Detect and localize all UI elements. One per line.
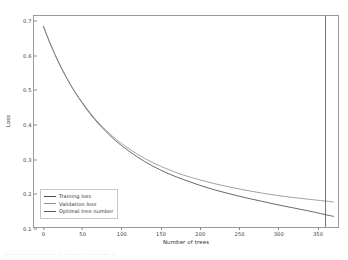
legend-label: Optimal tree number <box>59 208 113 214</box>
y-tick-label: 0.1 <box>23 226 34 232</box>
x-tick: 200 <box>195 227 205 237</box>
series-line-validation-loss <box>43 26 333 202</box>
x-tick: 300 <box>274 227 284 237</box>
x-tick: 50 <box>79 227 86 237</box>
legend-color-swatch <box>44 211 56 212</box>
chart-legend: Training lossValidation lossOptimal tree… <box>40 189 118 220</box>
legend-label: Training loss <box>59 193 91 199</box>
y-tick: 0.3 <box>23 157 34 163</box>
y-tick-mark <box>34 229 37 230</box>
y-tick-mark <box>34 55 37 56</box>
legend-label: Validation loss <box>59 201 96 207</box>
figure-canvas: 0.10.20.30.40.50.60.7 050100150200250300… <box>0 0 348 260</box>
x-tick-label: 50 <box>79 231 86 237</box>
y-tick-mark <box>34 159 37 160</box>
y-tick-label: 0.4 <box>23 122 34 128</box>
x-tick: 250 <box>235 227 245 237</box>
y-tick: 0.6 <box>23 53 34 59</box>
y-tick-label: 0.3 <box>23 157 34 163</box>
x-tick-mark <box>161 227 162 230</box>
x-tick-mark <box>239 227 240 230</box>
y-tick-mark <box>34 125 37 126</box>
y-axis-title: Loss <box>5 115 11 127</box>
x-tick-label: 150 <box>156 231 166 237</box>
y-tick: 0.5 <box>23 87 34 93</box>
clipped-caption-strip: ···· ·· ····· ······ ··· ·· ··· ··· ····… <box>4 252 248 258</box>
y-tick-mark <box>34 194 37 195</box>
legend-item: Optimal tree number <box>44 208 113 216</box>
y-tick: 0.7 <box>23 18 34 24</box>
y-tick-label: 0.7 <box>23 18 34 24</box>
x-tick-mark <box>318 227 319 230</box>
x-tick-mark <box>121 227 122 230</box>
y-tick-label: 0.5 <box>23 87 34 93</box>
x-tick-mark <box>278 227 279 230</box>
x-tick-label: 250 <box>235 231 245 237</box>
legend-color-swatch <box>44 203 56 204</box>
caption-text: ···· ·· ····· ······ ··· ·· ··· ··· ····… <box>4 252 248 258</box>
y-tick-mark <box>34 21 37 22</box>
legend-color-swatch <box>44 196 56 197</box>
x-tick-mark <box>43 227 44 230</box>
y-tick-label: 0.2 <box>23 191 34 197</box>
y-tick-label: 0.6 <box>23 53 34 59</box>
x-tick-mark <box>82 227 83 230</box>
x-tick: 100 <box>117 227 127 237</box>
x-tick: 350 <box>313 227 323 237</box>
y-tick: 0.1 <box>23 226 34 232</box>
x-tick-label: 350 <box>313 231 323 237</box>
y-tick: 0.4 <box>23 122 34 128</box>
x-axis-title: Number of trees <box>33 239 339 245</box>
y-tick: 0.2 <box>23 191 34 197</box>
legend-item: Validation loss <box>44 200 113 208</box>
x-tick-label: 200 <box>195 231 205 237</box>
plot-area: 0.10.20.30.40.50.60.7 050100150200250300… <box>33 15 339 228</box>
legend-item: Training loss <box>44 193 113 201</box>
x-tick-label: 100 <box>117 231 127 237</box>
x-tick: 0 <box>42 227 45 237</box>
x-tick: 150 <box>156 227 166 237</box>
x-tick-label: 300 <box>274 231 284 237</box>
x-tick-mark <box>200 227 201 230</box>
y-tick-mark <box>34 90 37 91</box>
x-tick-label: 0 <box>42 231 45 237</box>
